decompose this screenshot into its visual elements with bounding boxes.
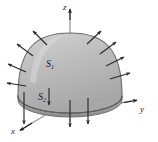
surface-label-s2-subscript: 2 xyxy=(43,97,46,103)
figure-canvas: z y x S1 S2 xyxy=(0,0,158,142)
y-axis-label: y xyxy=(139,104,144,114)
z-axis-label: z xyxy=(62,2,67,12)
y-axis-arrowhead xyxy=(124,100,137,102)
x-axis-label: x xyxy=(10,126,15,136)
vector-field-surface-figure: z y x S1 S2 xyxy=(0,0,158,142)
x-axis-arrowhead xyxy=(20,123,32,131)
surface-label-s1-subscript: 1 xyxy=(51,64,54,70)
